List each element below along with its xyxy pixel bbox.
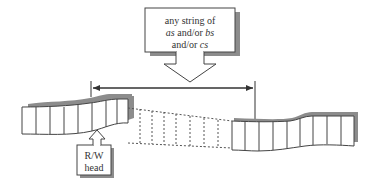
- callout-andor-2: and/or: [172, 39, 200, 50]
- callout-line-2: as and/or bs: [147, 27, 233, 39]
- callout-cs: cs: [200, 39, 208, 50]
- tape-dashed-cells: [128, 108, 232, 148]
- callout-label: any string of as and/or bs and/or cs: [147, 15, 233, 51]
- tape-right-segment: [232, 112, 358, 151]
- callout-as: as: [166, 27, 175, 38]
- down-arrow-icon: [164, 52, 216, 82]
- callout-line-1: any string of: [147, 15, 233, 27]
- turing-tape-diagram: any string of as and/or bs and/or cs R/W…: [0, 0, 376, 187]
- rw-head-line-1: R/W: [78, 150, 110, 162]
- rw-head-label: R/W head: [78, 150, 110, 174]
- callout-bs: bs: [205, 27, 214, 38]
- up-arrow-icon: [89, 130, 105, 145]
- rw-head-line-2: head: [78, 162, 110, 174]
- tape-left-segment: [22, 94, 134, 134]
- callout-line-3: and/or cs: [147, 39, 233, 51]
- callout-andor-1: and/or: [175, 27, 206, 38]
